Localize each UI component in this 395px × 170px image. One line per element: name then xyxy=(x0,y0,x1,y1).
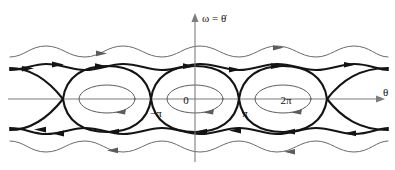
flow-arrow-left-icon xyxy=(291,110,302,115)
rotation-below-outer-curve xyxy=(10,141,388,152)
flow-arrow-right-icon xyxy=(229,67,241,73)
separatrix-loop xyxy=(63,99,151,132)
flow-arrow-left-icon xyxy=(52,131,64,137)
y-axis-group xyxy=(192,13,199,162)
rotation-above-outer-group xyxy=(10,45,388,57)
tick-label-minus-pi: −π xyxy=(150,107,162,119)
phase-portrait-canvas: θ ω = θ̇ −π 0 π 2π xyxy=(0,0,395,170)
y-axis-label: ω = θ̇ xyxy=(202,12,227,24)
rotation-above-outer-curve xyxy=(10,46,388,57)
flow-arrow-right-icon xyxy=(96,51,107,57)
x-axis-label: θ xyxy=(383,86,388,98)
rotation-below-outer-group xyxy=(10,141,388,155)
phase-portrait-figure: θ ω = θ̇ −π 0 π 2π xyxy=(0,0,395,170)
tick-label-pi: π xyxy=(242,107,248,119)
separatrix-loop xyxy=(10,99,63,130)
tick-label-two-pi: 2π xyxy=(280,94,292,106)
flow-arrow-right-icon xyxy=(344,62,356,67)
separatrix-loop xyxy=(63,66,151,99)
flow-arrow-left-icon xyxy=(203,110,214,115)
tick-label-zero: 0 xyxy=(183,94,189,106)
flow-arrow-left-icon xyxy=(344,131,356,137)
y-axis-arrow-icon xyxy=(192,13,199,22)
flow-arrow-left-icon xyxy=(115,110,126,115)
separatrix-loop xyxy=(327,99,388,130)
separatrix-loop xyxy=(327,68,388,99)
separatrix-loop xyxy=(10,68,63,99)
